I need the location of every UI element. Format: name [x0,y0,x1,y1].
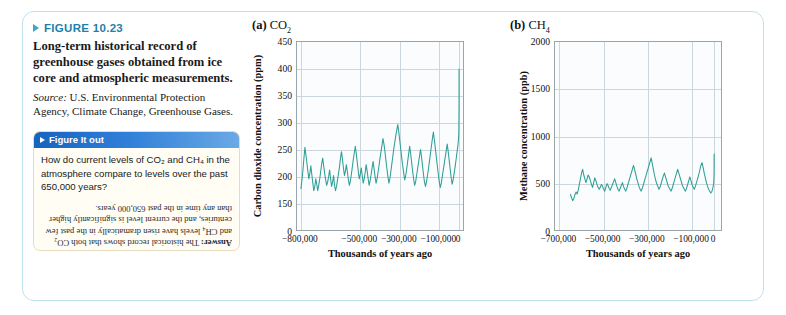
x-tick-label: −100,000 [420,234,456,244]
y-tick-label: 200 [278,171,292,182]
panel-a-label: (a) CO2 [252,18,480,35]
co2-plot-area [296,41,464,231]
y-tick-label: 500 [536,178,550,189]
y-tick-label: 2000 [531,35,550,46]
figure-number-label: FIGURE 10.23 [44,22,123,34]
x-tick-label: −300,000 [629,234,665,244]
answer-label: Answer: [201,238,232,248]
figure-caption-text: Long-term historical record of greenhous… [33,38,240,86]
y-tick-label: 250 [278,144,292,155]
figure-it-out-question: How do current levels of CO₂ and CH₄ in … [34,148,239,197]
panel-a-species: CO [270,18,287,32]
chart-panel-co2: (a) CO2 Carbon dioxide concentration (pp… [250,18,480,265]
x-tick-label: −500,000 [341,234,377,244]
y-tick-label: 300 [278,116,292,127]
source-label: Source: [33,91,67,103]
x-tick-label: −800,000 [282,234,318,244]
data-series-line [297,42,465,232]
ch4-x-axis-label: Thousands of years ago [554,248,722,259]
triangle-bullet-icon [33,24,39,32]
ch4-chart: Methane concentration (ppb) 050010001500… [508,39,738,265]
panel-b-letter: (b) [510,18,525,32]
x-tick-label: 0 [456,234,461,244]
x-tick-label: −500,000 [585,234,621,244]
y-tick-label: 150 [278,198,292,209]
triangle-bullet-white-icon [40,137,45,143]
figure-it-out-header-bar: Figure It out [34,132,239,148]
co2-y-tick-labels: 0150200250300350400450 [250,39,292,231]
x-tick-label: −300,000 [381,234,417,244]
co2-chart: Carbon dioxide concentration (ppm) 01502… [250,39,480,265]
figure-source-line: Source: U.S. Environmental Protection Ag… [33,91,240,119]
x-tick-label: −100,000 [673,234,709,244]
co2-x-axis-label: Thousands of years ago [296,248,464,259]
figure-it-out-box: Figure It out How do current levels of C… [33,131,240,251]
ch4-y-tick-labels: 0500100015002000 [508,39,550,231]
figure-it-out-answer: Answer: The historical record shows that… [34,197,239,250]
panel-a-letter: (a) [252,18,267,32]
y-tick-label: 400 [278,62,292,73]
chart-panel-ch4: (b) CH4 Methane concentration (ppb) 0500… [508,18,738,265]
figure-caption-column: FIGURE 10.23 Long-term historical record… [33,22,240,119]
figure-header: FIGURE 10.23 [33,22,240,34]
y-tick-label: 1000 [531,130,550,141]
panel-b-label: (b) CH4 [510,18,738,35]
y-tick-label: 350 [278,89,292,100]
panel-a-subscript: 2 [287,26,291,35]
data-series-line [555,42,723,232]
y-tick-label: 1500 [531,83,550,94]
ch4-plot-area [554,41,722,231]
x-tick-label: −700,000 [541,234,577,244]
panel-b-species: CH [528,18,545,32]
figure-it-out-title: Figure It out [49,134,104,145]
x-tick-label: 0 [711,234,716,244]
y-tick-label: 450 [278,35,292,46]
panel-b-subscript: 4 [546,26,550,35]
